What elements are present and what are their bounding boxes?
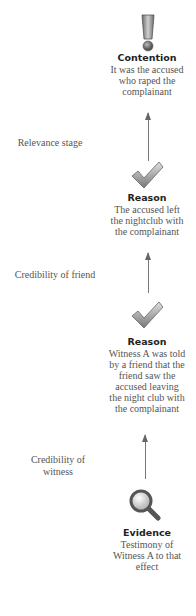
- text-line: the night club with: [99, 392, 195, 403]
- text-line: friend saw the: [99, 370, 195, 381]
- text-line: who raped the: [99, 75, 195, 86]
- text-line: Witness A was told: [99, 348, 195, 359]
- reason-node: Reason The accused left the nightclub wi…: [99, 192, 195, 237]
- text-line: It was the accused: [99, 64, 195, 75]
- text-line: the complainant: [99, 403, 195, 414]
- text-line: Testimony of: [99, 539, 195, 550]
- stage-text: Credibility of friend: [10, 269, 100, 281]
- text-line: The accused left: [99, 204, 195, 215]
- checkmark-icon: [130, 160, 164, 190]
- text-line: the nightclub with: [99, 215, 195, 226]
- magnifier-icon: [128, 488, 162, 522]
- text-line: accused leaving: [99, 381, 195, 392]
- node-title: Reason: [99, 192, 195, 204]
- node-title: Evidence: [99, 527, 195, 539]
- support-arrow: [145, 435, 146, 479]
- node-text: It was the accused who raped the complai…: [99, 64, 195, 97]
- text-line: Witness A to that: [99, 550, 195, 561]
- stage-text: witness: [20, 466, 96, 478]
- stage-label-credibility-witness: Credibility of witness: [20, 454, 96, 478]
- evidence-node: Evidence Testimony of Witness A to that …: [99, 527, 195, 572]
- reason-node: Reason Witness A was told by a friend th…: [99, 336, 195, 414]
- text-line: the complainant: [99, 226, 195, 237]
- stage-label-credibility-friend: Credibility of friend: [10, 269, 100, 281]
- support-arrow: [148, 253, 149, 293]
- text-line: effect: [99, 561, 195, 572]
- support-arrow: [148, 113, 149, 161]
- exclamation-icon: [138, 14, 158, 52]
- checkmark-icon: [130, 300, 164, 330]
- node-text: Testimony of Witness A to that effect: [99, 539, 195, 572]
- node-text: Witness A was told by a friend that the …: [99, 348, 195, 414]
- stage-label-relevance: Relevance stage: [12, 137, 88, 149]
- node-title: Contention: [99, 52, 195, 64]
- contention-node: Contention It was the accused who raped …: [99, 52, 195, 97]
- stage-text: Relevance stage: [12, 137, 88, 149]
- node-text: The accused left the nightclub with the …: [99, 204, 195, 237]
- stage-text: Credibility of: [20, 454, 96, 466]
- text-line: complainant: [99, 86, 195, 97]
- node-title: Reason: [99, 336, 195, 348]
- text-line: by a friend that the: [99, 359, 195, 370]
